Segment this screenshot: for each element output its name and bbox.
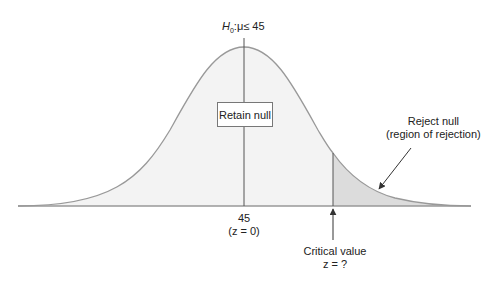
- retain-null-box: Retain null: [217, 102, 273, 127]
- hypothesis-label: H0:μ≤ 45: [222, 20, 265, 37]
- critical-line2: z = ?: [303, 258, 367, 271]
- h-letter: H: [222, 20, 230, 32]
- mean-label: 45 (z = 0): [224, 212, 264, 238]
- hypothesis-text: :μ≤ 45: [234, 20, 265, 32]
- rejection-region: [333, 153, 471, 206]
- reject-arrow: [379, 148, 411, 189]
- reject-line1: Reject null: [386, 115, 481, 128]
- reject-label: Reject null (region of rejection): [386, 115, 481, 141]
- reject-line2: (region of rejection): [386, 128, 481, 141]
- normal-curve-diagram: [0, 0, 490, 284]
- mean-z: (z = 0): [224, 225, 264, 238]
- retain-region: [18, 47, 333, 206]
- critical-line1: Critical value: [303, 245, 367, 258]
- mean-value: 45: [224, 212, 264, 225]
- critical-label: Critical value z = ?: [303, 245, 367, 271]
